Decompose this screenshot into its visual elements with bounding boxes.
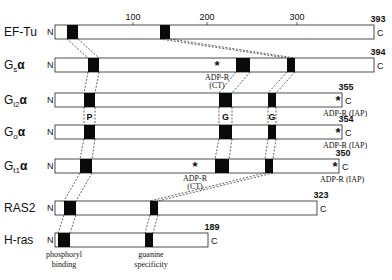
connector-line — [276, 72, 295, 93]
sequence-length: 393 — [370, 14, 385, 24]
connector-line — [150, 173, 265, 201]
n-terminus-label: N — [47, 203, 54, 213]
adp-ribosylation-iap-label: ADP-R (IAP) — [320, 175, 365, 184]
sequence-length: 189 — [204, 222, 219, 232]
protein-bar — [55, 125, 342, 139]
connector-line — [80, 139, 84, 159]
axis-tick-label: 200 — [199, 12, 214, 22]
conserved-region-block — [150, 201, 158, 215]
n-terminus-label: N — [47, 60, 54, 70]
c-terminus-label: C — [377, 28, 384, 38]
conserved-region-block — [236, 58, 250, 72]
n-terminus-label: N — [47, 95, 54, 105]
conserved-region-block — [84, 93, 95, 107]
connector-line — [160, 39, 287, 58]
conserved-region-block — [64, 201, 76, 215]
connector-line — [153, 215, 158, 233]
protein-bar — [55, 201, 317, 215]
phosphoryl-binding-label: phosphoryl — [46, 250, 83, 259]
sequence-length: 323 — [313, 190, 328, 200]
axis-tick-label: 300 — [289, 12, 304, 22]
connector-line — [229, 139, 232, 159]
connector-line — [84, 72, 88, 93]
c-terminus-label: C — [320, 204, 327, 214]
connector-line — [170, 39, 295, 58]
conserved-region-block — [268, 125, 276, 139]
protein-name-ras2: RAS2 — [4, 201, 36, 215]
connector-line — [265, 139, 268, 159]
conserved-region-block — [265, 159, 273, 173]
sequence-length: 394 — [370, 47, 385, 57]
connector-line — [145, 215, 150, 233]
connector-line — [76, 173, 92, 201]
connector-line — [67, 39, 88, 58]
sequence-length: 355 — [338, 82, 353, 92]
connector-line — [92, 139, 95, 159]
adp-ribosylation-ct-label: (CT) — [187, 182, 203, 191]
conserved-region-block — [80, 159, 92, 173]
axis-tick-label: 100 — [125, 12, 140, 22]
connector-line — [268, 72, 287, 93]
protein-name-eftu: EF-Tu — [4, 25, 37, 39]
n-terminus-label: N — [47, 235, 54, 245]
region-label-g: G — [222, 112, 229, 122]
region-label-g: G — [268, 112, 275, 122]
conserved-region-block — [58, 233, 70, 247]
alignment-figure: 100200300EF-TuNC393GsαNC394*ADP-R(CT)Gi2… — [0, 0, 392, 280]
c-terminus-label: C — [377, 61, 384, 71]
connector-line — [70, 215, 76, 233]
sequence-length: 354 — [338, 114, 353, 124]
protein-bar — [55, 93, 342, 107]
connector-line — [215, 139, 219, 159]
protein-name-gi2: Gi2α — [4, 93, 28, 109]
c-terminus-label: C — [345, 128, 352, 138]
connector-line — [95, 72, 99, 93]
connector-line — [158, 173, 273, 201]
guanine-specificity-label: guanine — [138, 250, 164, 259]
c-terminus-label: C — [211, 236, 218, 246]
conserved-region-block — [67, 25, 78, 39]
conserved-region-block — [219, 125, 232, 139]
conserved-region-block — [219, 93, 232, 107]
n-terminus-label: N — [47, 127, 54, 137]
connector-line — [273, 139, 276, 159]
guanine-specificity-label: specificity — [134, 260, 167, 269]
phosphoryl-binding-label: binding — [52, 260, 76, 269]
connector-line — [58, 215, 64, 233]
protein-name-hras: H-ras — [4, 233, 33, 247]
protein-name-gs: Gsα — [4, 58, 25, 74]
protein-bar — [55, 233, 208, 247]
conserved-region-block — [88, 58, 99, 72]
sequence-length: 350 — [335, 148, 350, 158]
conserved-region-block — [215, 159, 229, 173]
n-terminus-label: N — [47, 161, 54, 171]
protein-alignment-diagram: 100200300EF-TuNC393GsαNC394*ADP-R(CT)Gi2… — [0, 0, 392, 280]
conserved-region-block — [145, 233, 153, 247]
connector-line — [232, 72, 250, 93]
protein-name-go: Goα — [4, 125, 26, 141]
conserved-region-block — [84, 125, 95, 139]
conserved-region-block — [268, 93, 276, 107]
c-terminus-label: C — [345, 96, 352, 106]
connector-line — [64, 173, 80, 201]
connector-line — [78, 39, 99, 58]
c-terminus-label: C — [342, 162, 349, 172]
protein-name-gt1: Gt1α — [4, 159, 28, 175]
protein-bar — [55, 25, 374, 39]
region-label-p: P — [86, 112, 92, 122]
n-terminus-label: N — [47, 27, 54, 37]
conserved-region-block — [160, 25, 170, 39]
conserved-region-block — [287, 58, 295, 72]
adp-ribosylation-ct-label: (CT) — [209, 81, 225, 90]
